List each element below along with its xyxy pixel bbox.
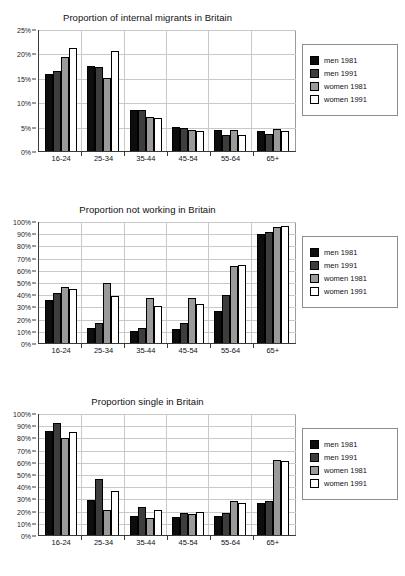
y-tick-mark — [32, 462, 36, 463]
bar-group — [209, 414, 251, 536]
y-tick-mark — [32, 331, 36, 332]
legend-item: women 1991 — [310, 95, 391, 104]
legend-swatch-icon — [310, 82, 319, 91]
legend-swatch-icon — [310, 453, 319, 462]
bar — [45, 74, 53, 152]
bar — [103, 510, 111, 536]
bar — [281, 226, 289, 344]
legend-item: women 1981 — [310, 274, 391, 283]
bar — [196, 304, 204, 344]
bar — [222, 135, 230, 152]
x-axis-labels: 16-2425-3435-4445-5455-6465+ — [38, 346, 296, 355]
x-tick-label: 45-54 — [167, 154, 209, 163]
bar — [180, 323, 188, 344]
legend-item: women 1981 — [310, 82, 391, 91]
y-tick-mark — [32, 54, 36, 55]
bar — [154, 118, 162, 152]
plot-area — [38, 30, 296, 152]
legend-label: women 1981 — [324, 274, 367, 283]
y-tick-mark — [32, 438, 36, 439]
bar-group — [167, 222, 209, 344]
plot-area — [38, 414, 296, 536]
y-tick-label: 10% — [17, 100, 31, 107]
x-tick-label: 25-34 — [82, 346, 124, 355]
x-tick-label: 45-54 — [167, 346, 209, 355]
bar — [238, 135, 246, 152]
legend-label: women 1981 — [324, 466, 367, 475]
y-axis-labels: 0%10%20%30%40%50%60%70%80%90%100% — [0, 222, 36, 344]
bar — [87, 500, 95, 536]
bar — [130, 516, 138, 536]
y-tick-mark — [32, 78, 36, 79]
bar-groups — [38, 30, 296, 152]
y-tick-mark — [32, 414, 36, 415]
legend-swatch-icon — [310, 440, 319, 449]
legend-swatch-icon — [310, 287, 319, 296]
legend-item: men 1981 — [310, 440, 391, 449]
bar — [222, 513, 230, 536]
y-tick-label: 40% — [17, 484, 31, 491]
bar-group — [209, 222, 251, 344]
legend-swatch-icon — [310, 69, 319, 78]
y-tick-label: 20% — [17, 316, 31, 323]
x-tick-label: 65+ — [252, 538, 294, 547]
bar-group — [125, 414, 167, 536]
bar-group — [125, 222, 167, 344]
y-axis-line — [38, 30, 39, 152]
y-tick-label: 0% — [21, 533, 31, 540]
bar — [61, 57, 69, 152]
legend: men 1981men 1991women 1981women 1991 — [302, 44, 398, 116]
y-tick-label: 100% — [13, 411, 31, 418]
x-tick-label: 16-24 — [40, 538, 82, 547]
y-axis-line — [38, 414, 39, 536]
y-tick-mark — [32, 511, 36, 512]
x-tick-label: 25-34 — [82, 154, 124, 163]
y-tick-mark — [32, 536, 36, 537]
bar — [103, 283, 111, 344]
bar — [180, 513, 188, 536]
bar — [69, 48, 77, 152]
legend-label: men 1991 — [324, 69, 357, 78]
bar — [138, 507, 146, 536]
bar-group — [252, 222, 294, 344]
bar — [45, 300, 53, 344]
bar — [95, 323, 103, 344]
legend-swatch-icon — [310, 261, 319, 270]
x-axis-labels: 16-2425-3435-4445-5455-6465+ — [38, 538, 296, 547]
legend-label: men 1981 — [324, 440, 357, 449]
y-tick-mark — [32, 295, 36, 296]
y-tick-label: 80% — [17, 243, 31, 250]
bar-group — [252, 30, 294, 152]
y-tick-mark — [32, 234, 36, 235]
y-tick-mark — [32, 258, 36, 259]
legend-swatch-icon — [310, 274, 319, 283]
legend-item: men 1991 — [310, 453, 391, 462]
y-tick-label: 70% — [17, 447, 31, 454]
legend-swatch-icon — [310, 95, 319, 104]
bar — [138, 328, 146, 344]
legend: men 1981men 1991women 1981women 1991 — [302, 236, 398, 308]
bar — [196, 131, 204, 152]
bar — [172, 127, 180, 152]
chart-title: Proportion single in Britain — [0, 384, 405, 407]
y-tick-mark — [32, 344, 36, 345]
bar — [146, 518, 154, 536]
y-tick-mark — [32, 487, 36, 488]
x-tick-label: 55-64 — [209, 346, 251, 355]
legend-swatch-icon — [310, 466, 319, 475]
bar — [138, 110, 146, 152]
bar — [265, 501, 273, 536]
bar-group — [167, 30, 209, 152]
y-tick-mark — [32, 127, 36, 128]
y-tick-label: 50% — [17, 280, 31, 287]
bar — [146, 298, 154, 344]
y-tick-mark — [32, 222, 36, 223]
y-tick-label: 90% — [17, 231, 31, 238]
bar — [53, 71, 61, 152]
legend: men 1981men 1991women 1981women 1991 — [302, 428, 398, 500]
x-tick-label: 25-34 — [82, 538, 124, 547]
chart-internal-migrants: Proportion of internal migrants in Brita… — [0, 0, 405, 192]
bar-group — [167, 414, 209, 536]
bar — [222, 295, 230, 344]
bar — [281, 131, 289, 152]
